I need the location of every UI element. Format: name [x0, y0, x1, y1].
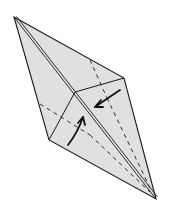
origami-diagram [0, 0, 171, 208]
origami-figure [0, 0, 171, 208]
